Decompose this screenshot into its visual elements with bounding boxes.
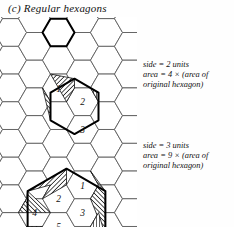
- cell-label-lower-5: 5: [56, 222, 61, 227]
- annotation-side-3: side = 3 units area = 9 × (area of origi…: [143, 141, 208, 172]
- hex-cell: [139, 19, 171, 47]
- hex-cell: [139, 102, 171, 130]
- annotation-side-3-line1: side = 3 units: [143, 141, 208, 151]
- annotation-side-2-line1: side = 2 units: [143, 60, 208, 70]
- cell-label-lower-4: 4: [32, 208, 37, 218]
- annotation-side-2-line3: original hexagon): [143, 80, 208, 90]
- cell-label-upper-2: 2: [80, 97, 85, 107]
- cell-label-lower-2: 2: [56, 194, 61, 204]
- hex-cell: [139, 185, 171, 213]
- cell-label-upper-1: 1: [56, 84, 61, 94]
- honeycomb-grid: [0, 0, 171, 227]
- annotation-side-3-line2: area = 9 × (area of: [143, 151, 208, 161]
- annotation-side-3-line3: original hexagon): [143, 161, 208, 171]
- figure-caption: (c) Regular hexagons: [8, 2, 107, 14]
- annotation-side-2: side = 2 units area = 4 × (area of origi…: [143, 60, 208, 91]
- annotation-side-2-line2: area = 4 × (area of: [143, 70, 208, 80]
- cell-label-upper-3: 3: [79, 125, 85, 135]
- figure-container: (c) Regular hexagons 123123456: [0, 0, 234, 227]
- hex-cell: [139, 213, 171, 227]
- cell-label-lower-1: 1: [80, 181, 85, 191]
- hexagon-tiling-diagram: 123123456: [0, 0, 234, 227]
- cell-label-lower-3: 3: [79, 208, 85, 218]
- hex-cell: [139, 0, 171, 19]
